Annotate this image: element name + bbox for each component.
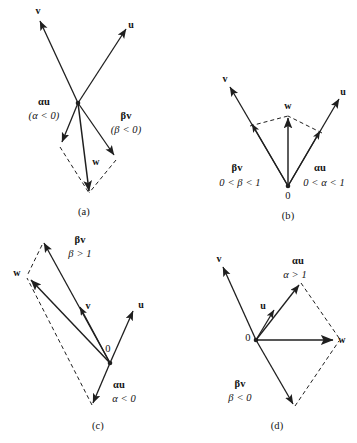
panel-b-label-beta-cond: 0 < β < 1 bbox=[219, 177, 260, 189]
panel-d-label-origin: 0 bbox=[245, 332, 250, 344]
panel-a-caption: (a) bbox=[78, 206, 90, 218]
panel-a-alpha-u-text: αu bbox=[38, 96, 50, 107]
panel-b-caption: (b) bbox=[282, 210, 295, 222]
panel-a-label-alpha-cond: (α < 0) bbox=[29, 110, 60, 122]
panel-d-beta-v-text: βv bbox=[235, 378, 246, 389]
panel-d-dashed-side-lower bbox=[295, 341, 339, 406]
panel-d-vector-beta-v bbox=[256, 340, 293, 404]
panel-c-label-w: w bbox=[13, 267, 20, 278]
panel-b-dashed-side-left bbox=[250, 116, 288, 126]
panel-b-label-u: u bbox=[340, 86, 346, 97]
panel-c-origin-dot bbox=[108, 361, 113, 366]
panel-c-label-u: u bbox=[138, 299, 144, 310]
panel-d-label-w: w bbox=[338, 334, 345, 345]
panel-d-label-u: u bbox=[260, 300, 266, 311]
vector-decomposition-figure: v u αu (α < 0) βv (β < 0) w (a) v u w βv… bbox=[0, 0, 357, 443]
panel-b-label-alpha-cond: 0 < α < 1 bbox=[303, 177, 345, 189]
panel-c-label-v: v bbox=[85, 300, 90, 311]
panel-c-caption: (c) bbox=[92, 420, 104, 432]
panel-a-label-beta-cond: (β < 0) bbox=[111, 124, 142, 136]
panel-c-dashed-side-top bbox=[27, 245, 42, 276]
panel-d-caption: (d) bbox=[271, 420, 284, 432]
figure-canvas bbox=[0, 0, 357, 443]
panel-c-alpha-u-text: αu bbox=[113, 379, 125, 390]
panel-b-label-v: v bbox=[222, 73, 227, 84]
panel-c-label-alpha-cond: α < 0 bbox=[112, 393, 136, 405]
panel-c-dashed-side-bottom bbox=[27, 278, 92, 405]
panel-d-alpha-u-text: αu bbox=[292, 255, 304, 266]
panel-d-label-beta-v: βv bbox=[235, 378, 246, 390]
panel-a-label-v: v bbox=[35, 5, 40, 16]
panel-a-label-alpha-u: αu bbox=[38, 96, 50, 108]
panel-a-beta-v-text: βv bbox=[121, 110, 132, 121]
panel-a-label-beta-v: βv bbox=[121, 110, 132, 122]
panel-c-label-beta-v: βv bbox=[75, 234, 86, 246]
panel-c-vector-alpha-u bbox=[93, 363, 110, 403]
panel-d-label-alpha-u: αu bbox=[292, 255, 304, 267]
panel-c-label-alpha-u: αu bbox=[113, 379, 125, 391]
panel-b-label-w: w bbox=[284, 100, 291, 111]
panel-a-origin-dot bbox=[76, 101, 81, 106]
panel-b-label-beta-v: βv bbox=[232, 162, 243, 174]
panel-b-dashed-side-right bbox=[288, 116, 322, 133]
panel-d-origin-dot bbox=[254, 338, 259, 343]
panel-b-beta-v-text: βv bbox=[232, 162, 243, 173]
panel-c-beta-v-text: βv bbox=[75, 234, 86, 245]
panel-a-label-u: u bbox=[128, 19, 134, 30]
panel-a-vectors bbox=[40, 21, 126, 193]
panel-b-alpha-u-text: αu bbox=[314, 162, 326, 173]
panel-d-vector-v bbox=[223, 267, 256, 340]
panel-d-vector-alpha-u bbox=[256, 285, 299, 340]
panel-d-label-beta-cond: β < 0 bbox=[228, 392, 251, 404]
panel-a-label-w: w bbox=[92, 156, 99, 167]
panel-a-vector-alpha-u bbox=[62, 103, 78, 142]
panel-b-label-origin: 0 bbox=[285, 190, 290, 202]
panel-b-origin-dot bbox=[286, 184, 291, 189]
panel-a-vector-v bbox=[40, 21, 78, 103]
panel-a-vector-u bbox=[78, 29, 126, 103]
panel-d-dashed-side-upper bbox=[301, 283, 339, 338]
panel-c-label-origin: 0 bbox=[105, 343, 110, 355]
panel-c-label-beta-cond: β > 1 bbox=[68, 248, 91, 260]
panel-c-vector-u bbox=[110, 311, 133, 363]
panel-d-label-v: v bbox=[216, 253, 221, 264]
panel-b-label-alpha-u: αu bbox=[314, 162, 326, 174]
panel-d-label-alpha-cond: α > 1 bbox=[283, 269, 307, 281]
